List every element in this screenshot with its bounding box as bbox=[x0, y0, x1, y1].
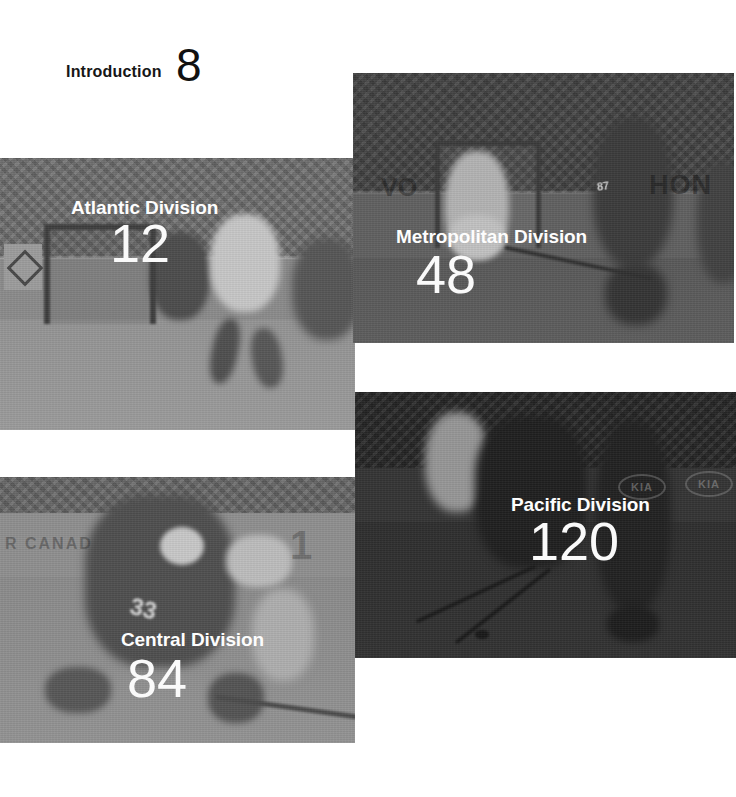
board-ad-text: VO bbox=[381, 175, 417, 200]
player-silhouette bbox=[292, 238, 355, 340]
kia-logo-text: KIA bbox=[698, 478, 720, 490]
division-page-number: 12 bbox=[110, 216, 170, 270]
division-page-number: 84 bbox=[127, 651, 187, 705]
skate-silhouette bbox=[607, 606, 659, 642]
jersey-number: 87 bbox=[596, 180, 610, 193]
toc-entry-pacific-division: KIA KIA Pacific Division 120 bbox=[355, 392, 736, 658]
helmet-silhouette bbox=[160, 527, 204, 565]
jersey-number: 33 bbox=[127, 594, 159, 624]
player-silhouette bbox=[210, 214, 280, 312]
ice-surface bbox=[353, 258, 734, 343]
puck-debris bbox=[475, 630, 489, 639]
ice-surface bbox=[0, 320, 355, 430]
diamond-logo bbox=[7, 250, 44, 287]
kia-logo: KIA bbox=[685, 471, 733, 497]
glove-silhouette bbox=[45, 667, 111, 713]
toc-entry-central-division: R CANAD 1 33 Central Division 84 bbox=[0, 477, 355, 743]
player-silhouette bbox=[226, 535, 292, 587]
book-contents-page: Introduction 8 Atlantic Division 12 VO H… bbox=[0, 0, 736, 797]
division-page-number: 48 bbox=[416, 247, 476, 301]
board-sign bbox=[4, 244, 42, 290]
introduction-page-number: 8 bbox=[176, 42, 202, 88]
introduction-label: Introduction bbox=[66, 64, 162, 80]
board-digit: 1 bbox=[290, 525, 312, 565]
board-ad-text-air-canada: R CANAD bbox=[5, 536, 93, 552]
kia-logo-text: KIA bbox=[631, 481, 653, 493]
toc-entry-metropolitan-division: VO HON 87 Metropolitan Division 48 bbox=[353, 73, 734, 343]
division-page-number: 120 bbox=[529, 514, 619, 568]
toc-entry-atlantic-division: Atlantic Division 12 bbox=[0, 158, 355, 430]
division-title: Central Division bbox=[121, 630, 264, 649]
board-ad-text-honda: HON bbox=[649, 172, 712, 199]
